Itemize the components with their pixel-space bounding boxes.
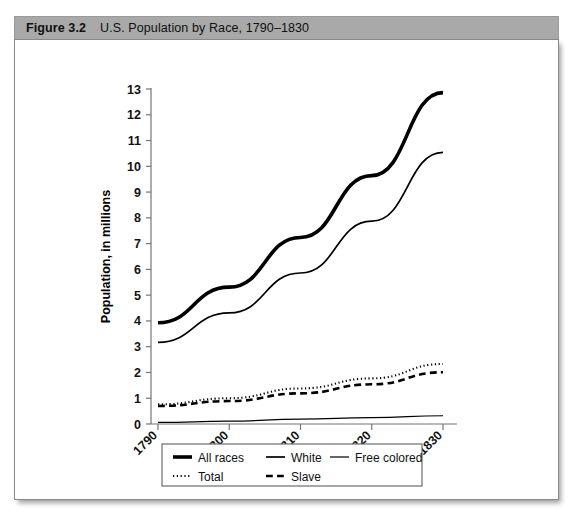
legend-label-free-colored: Free colored (355, 451, 422, 465)
chart-series (158, 93, 443, 423)
figure-title: U.S. Population by Race, 1790–1830 (100, 21, 309, 35)
y-tick-label: 5 (134, 289, 141, 303)
figure-titlebar: Figure 3.2 U.S. Population by Race, 1790… (14, 16, 559, 39)
legend-label-total: Total (198, 470, 223, 484)
series-line-free-colored (158, 416, 443, 423)
series-line-all-races (158, 93, 443, 323)
legend-label-all-races: All races (198, 451, 244, 465)
legend-label-slave: Slave (291, 470, 321, 484)
population-line-chart: 01234567891011121317901800181018201830Ye… (15, 40, 558, 499)
figure-body: 01234567891011121317901800181018201830Ye… (14, 39, 559, 500)
figure-container: Figure 3.2 U.S. Population by Race, 1790… (14, 16, 559, 501)
y-tick-label: 13 (127, 83, 141, 97)
y-axis-title: Population, in millions (99, 190, 113, 323)
series-line-white (158, 152, 443, 342)
y-tick-label: 3 (134, 340, 141, 354)
y-tick-label: 12 (127, 108, 141, 122)
y-tick-label: 1 (134, 392, 141, 406)
x-tick-label: 1790 (131, 428, 161, 458)
figure-label: Figure 3.2 (26, 21, 86, 35)
y-tick-label: 8 (134, 211, 141, 225)
y-tick-label: 0 (134, 418, 141, 432)
chart-legend: All racesWhiteFree coloredTotalSlave (162, 444, 422, 486)
y-tick-label: 4 (134, 314, 141, 328)
series-line-total (158, 364, 443, 404)
y-tick-label: 7 (134, 237, 141, 251)
legend-label-white: White (291, 451, 322, 465)
y-tick-label: 10 (127, 160, 141, 174)
y-tick-label: 11 (128, 134, 141, 148)
y-tick-label: 6 (134, 263, 141, 277)
y-tick-label: 9 (134, 186, 141, 200)
y-tick-label: 2 (134, 366, 141, 380)
